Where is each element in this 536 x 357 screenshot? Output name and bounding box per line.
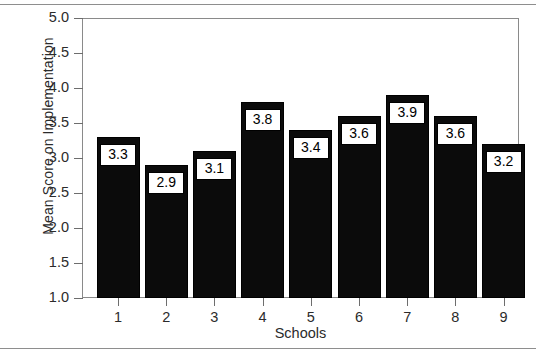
bar-value-label: 3.4 — [293, 137, 329, 159]
y-axis-tick-label: 1.0 — [49, 289, 69, 305]
x-axis-tick-label: 5 — [291, 309, 331, 325]
bar — [386, 95, 429, 298]
x-axis-tick-label: 8 — [435, 309, 475, 325]
y-axis-tick-label: 2.0 — [49, 219, 69, 235]
bar-value-label: 3.1 — [196, 158, 232, 180]
x-axis-tick-label: 4 — [243, 309, 283, 325]
y-axis-tick: 4.0 — [74, 88, 83, 89]
x-axis-title: Schools — [82, 325, 519, 341]
x-axis-tick — [214, 298, 215, 306]
y-axis-tick: 1.0 — [74, 298, 83, 299]
x-axis-tick — [311, 298, 312, 306]
bar-value-label: 3.9 — [389, 102, 425, 124]
bar-value-label: 3.6 — [341, 123, 377, 145]
x-axis-tick — [407, 298, 408, 306]
y-axis-tick-label: 5.0 — [49, 9, 69, 25]
y-axis-tick-label: 4.0 — [49, 79, 69, 95]
bar-value-label: 3.3 — [100, 144, 136, 166]
x-axis-tick — [263, 298, 264, 306]
bar-value-label: 3.6 — [437, 123, 473, 145]
y-axis-tick: 5.0 — [74, 18, 83, 19]
x-axis-tick — [504, 298, 505, 306]
y-axis-tick-label: 2.5 — [49, 184, 69, 200]
y-axis-tick: 1.5 — [74, 263, 83, 264]
y-axis-tick-label: 1.5 — [49, 254, 69, 270]
y-axis-tick-label: 4.5 — [49, 44, 69, 60]
bar — [241, 102, 284, 298]
y-axis-tick: 2.0 — [74, 228, 83, 229]
x-axis-tick-label: 3 — [194, 309, 234, 325]
y-axis-tick: 3.5 — [74, 123, 83, 124]
y-axis-tick-label: 3.0 — [49, 149, 69, 165]
bar-value-label: 3.8 — [245, 109, 281, 131]
y-axis-tick: 2.5 — [74, 193, 83, 194]
figure-rule-bottom — [0, 348, 536, 349]
x-axis-tick-label: 7 — [387, 309, 427, 325]
y-axis-tick: 4.5 — [74, 53, 83, 54]
y-axis-tick: 3.0 — [74, 158, 83, 159]
bar-value-label: 2.9 — [148, 172, 184, 194]
x-axis-tick — [455, 298, 456, 306]
x-axis-tick-label: 9 — [484, 309, 524, 325]
bar-value-label: 3.2 — [486, 151, 522, 173]
x-axis-tick — [359, 298, 360, 306]
x-axis-tick — [166, 298, 167, 306]
x-axis-tick-label: 6 — [339, 309, 379, 325]
x-axis-tick-label: 2 — [146, 309, 186, 325]
x-axis-tick — [118, 298, 119, 306]
x-axis-tick-label: 1 — [98, 309, 138, 325]
y-axis-tick-label: 3.5 — [49, 114, 69, 130]
figure-rule-top — [0, 4, 536, 5]
